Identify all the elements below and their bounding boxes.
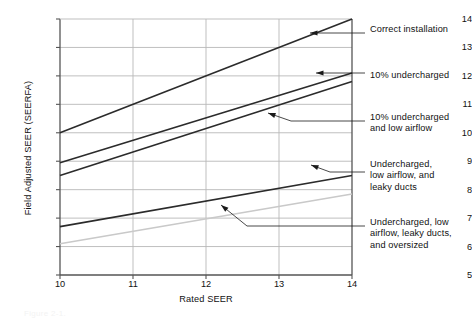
figure-caption: Figure 2-1.	[24, 309, 66, 318]
annotation-leaders	[221, 30, 365, 226]
annotation-arrowhead-1	[316, 70, 324, 75]
annotation-label-2: 10% undercharged and low airflow	[370, 112, 449, 135]
figure-root: Field Adjusted SEER (SEERFA) Rated SEER …	[0, 0, 472, 325]
annotation-label-1: 10% undercharged	[370, 70, 449, 81]
axis-tickmarks	[56, 19, 352, 279]
annotation-leader-2	[268, 113, 365, 121]
annotation-leader-3	[311, 165, 365, 172]
annotation-arrowhead-2	[268, 113, 276, 118]
annotation-arrowhead-4	[221, 205, 228, 212]
annotation-label-0: Correct installation	[370, 24, 448, 35]
annotation-label-3: Undercharged, low airflow, and leaky duc…	[370, 159, 434, 193]
annotation-label-4: Undercharged, low airflow, leaky ducts, …	[370, 217, 452, 251]
annotation-arrowhead-3	[311, 165, 319, 170]
annotation-leader-4	[221, 205, 365, 226]
